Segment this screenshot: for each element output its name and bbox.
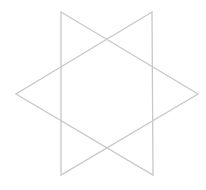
diagram-canvas	[0, 0, 206, 190]
triangle-pointing-right	[61, 12, 198, 175]
triangle-pointing-left	[16, 12, 153, 175]
star-icon	[0, 0, 206, 190]
